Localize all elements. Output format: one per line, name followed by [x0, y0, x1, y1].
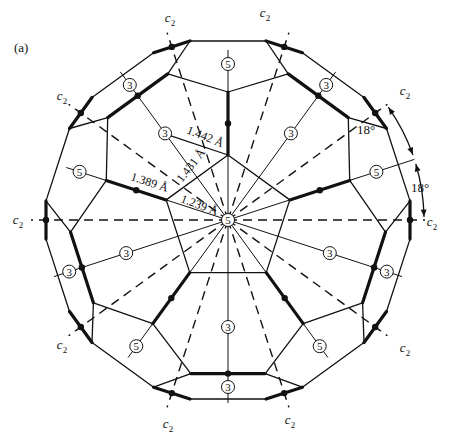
single-bond: [348, 118, 349, 181]
bond-center-dot: [79, 264, 85, 270]
single-bond: [153, 324, 191, 374]
bond-center-dot: [317, 187, 323, 193]
c3-axis-inner-label: 3: [123, 247, 129, 259]
c2-axis-label: c2: [165, 10, 175, 28]
c3-axis-outer-label: 3: [225, 381, 231, 393]
bond-center-dot: [315, 93, 321, 99]
c3-axis-inner-label: 3: [288, 127, 294, 139]
bond-center-dot: [407, 217, 413, 223]
bond-center-dot: [225, 120, 231, 126]
angle-label: 18°: [411, 180, 429, 195]
pentagon-bond: [166, 200, 190, 273]
c5-axis-label: 5: [374, 166, 380, 178]
arrowhead: [407, 147, 413, 155]
bond-center-dot: [372, 110, 378, 116]
bond-center-dot: [78, 324, 84, 330]
c5-axis-label: 5: [225, 58, 231, 70]
c5-axis-label: 5: [134, 340, 140, 352]
outer-bond: [302, 343, 364, 388]
single-bond: [154, 374, 191, 388]
bond-center-dot: [168, 295, 174, 301]
c60-symmetry-diagram: (a) 5555553333333333 c2c2c2c2c2c2c2c2c2c…: [0, 0, 451, 446]
bond-center-dot: [43, 217, 49, 223]
bond-center-dot: [225, 370, 231, 376]
single-bond: [350, 180, 386, 232]
c5-center-label: 5: [225, 214, 231, 226]
c3-axis-outer-label: 3: [127, 79, 133, 91]
bond-length-label: 1.442 Å: [185, 123, 226, 151]
single-bond: [386, 201, 411, 232]
c3-axis-inner-label: 3: [225, 321, 231, 333]
bond-center-dot: [135, 93, 141, 99]
c2-axis-label: c2: [57, 88, 67, 106]
c3-axis-outer-label: 3: [66, 266, 72, 278]
single-bond: [265, 324, 303, 374]
arrowhead: [389, 108, 395, 116]
c3-axis-inner-label: 3: [327, 247, 333, 259]
single-bond: [106, 118, 107, 181]
c2-axis-label: c2: [13, 212, 23, 230]
c5-axis-label: 5: [317, 340, 323, 352]
c2-axis-label: c2: [163, 416, 173, 434]
bond-center-dot: [169, 390, 175, 396]
single-bond: [168, 74, 228, 92]
angle-label: 18°: [357, 122, 375, 137]
c3-axis-inner-label: 3: [162, 127, 168, 139]
c2-axis-label: c2: [427, 214, 437, 232]
c2-axis-label: c2: [400, 83, 410, 101]
bond-length-label: 1.239 Å: [179, 192, 220, 218]
c3-axis-outer-label: 3: [384, 266, 390, 278]
single-bond: [265, 374, 302, 388]
bond-center-dot: [169, 44, 175, 50]
outer-bond: [46, 129, 70, 201]
pentagon-bond: [228, 155, 290, 200]
c3-axis-outer-label: 3: [323, 79, 329, 91]
bond-center-dot: [371, 264, 377, 270]
arrowhead: [421, 210, 427, 217]
single-bond: [303, 303, 362, 324]
c5-axis-label: 5: [77, 166, 83, 178]
panel-label: (a): [14, 40, 28, 56]
c2-axis-label: c2: [57, 337, 67, 355]
single-bond: [92, 303, 93, 343]
outer-bond: [92, 343, 154, 388]
single-bond: [93, 303, 152, 324]
bond-center-dot: [281, 390, 287, 396]
single-bond: [363, 303, 364, 343]
single-bond: [71, 180, 107, 232]
c2-axis-label: c2: [285, 412, 295, 430]
pentagon-bond: [266, 200, 290, 273]
fullerene-projection-svg: 5555553333333333 c2c2c2c2c2c2c2c2c2c218°…: [0, 0, 451, 446]
c5-c3-axes: [54, 50, 414, 403]
bond-center-dot: [133, 187, 139, 193]
bond-center-dot: [281, 44, 287, 50]
single-bond: [228, 74, 288, 92]
c2-axis-label: c2: [260, 5, 270, 23]
c2-axis-label: c2: [400, 340, 410, 358]
bond-center-dot: [78, 110, 84, 116]
bond-center-dot: [372, 324, 378, 330]
single-bond: [46, 201, 71, 232]
bond-center-dot: [282, 295, 288, 301]
